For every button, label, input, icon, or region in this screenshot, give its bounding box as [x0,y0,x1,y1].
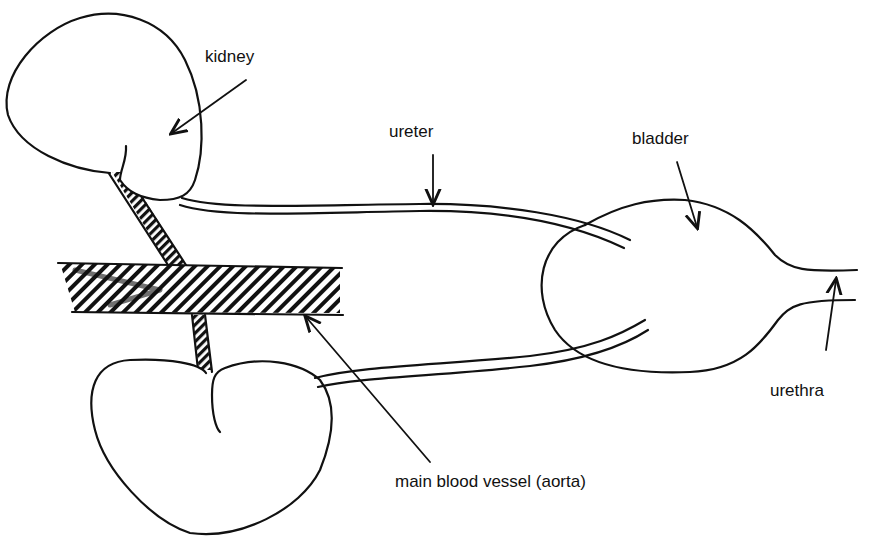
ureter-label: ureter [389,122,433,142]
kidney-label: kidney [205,47,254,67]
urethra-label: urethra [770,381,824,401]
aorta [58,263,343,315]
kidney-upper [7,14,202,200]
ureter-lower [315,320,648,387]
kidney-lower [91,360,331,534]
bladder-arrow [677,162,697,227]
urinary-system-diagram [0,0,870,544]
bladder [542,200,857,373]
lower-renal-vessel [192,315,212,372]
aorta-label: main blood vessel (aorta) [395,472,586,492]
bladder-label: bladder [632,129,689,149]
urethra-arrow [826,280,836,350]
ureter-upper [180,198,630,248]
